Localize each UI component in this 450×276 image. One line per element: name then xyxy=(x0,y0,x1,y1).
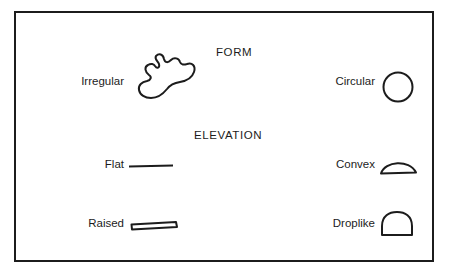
irregular-blob-icon xyxy=(126,51,198,109)
raised-slab-icon xyxy=(127,216,181,236)
section-heading-form: FORM xyxy=(216,46,252,58)
row-label-convex: Convex xyxy=(301,158,375,170)
section-heading-elevation: ELEVATION xyxy=(194,129,262,141)
row-label-irregular: Irregular xyxy=(50,75,124,87)
row-label-droplike: Droplike xyxy=(301,217,375,229)
convex-dome-icon xyxy=(378,155,420,179)
diagram-frame: FORM ELEVATION Irregular Circular Flat C… xyxy=(14,11,434,262)
flat-line-icon xyxy=(127,157,177,175)
row-label-flat: Flat xyxy=(50,158,124,170)
circle-outline-icon xyxy=(380,69,416,105)
figure-root: FORM ELEVATION Irregular Circular Flat C… xyxy=(0,0,450,276)
row-label-circular: Circular xyxy=(301,75,375,87)
droplike-dome-icon xyxy=(378,209,418,241)
row-label-raised: Raised xyxy=(50,217,124,229)
